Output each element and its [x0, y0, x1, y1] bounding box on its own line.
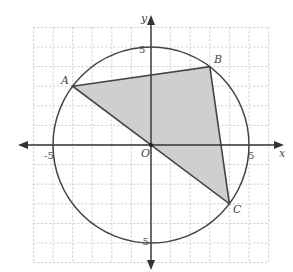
point-a-label: A — [60, 74, 69, 87]
point-c-label: C — [233, 203, 242, 216]
tick-y-pos5: 5 — [139, 44, 145, 55]
point-b-label: B — [213, 53, 222, 66]
coordinate-diagram: x y O -5 5 5 -5 A B C — [0, 0, 293, 272]
tick-y-neg5: -5 — [139, 236, 149, 247]
y-axis-label: y — [140, 12, 148, 25]
x-axis-label: x — [279, 147, 286, 160]
tick-x-pos5: 5 — [248, 150, 254, 161]
y-axis-arrow-down-icon — [147, 260, 155, 270]
origin-label: O — [141, 147, 150, 160]
x-axis-arrow-left-icon — [18, 141, 28, 149]
y-axis-arrow-up-icon — [147, 15, 155, 25]
tick-x-neg5: -5 — [44, 150, 54, 161]
